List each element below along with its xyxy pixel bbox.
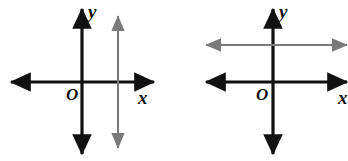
right-x-axis-label: x [338,88,348,107]
figure-svg [0,0,348,161]
right-y-axis-label: y [279,2,287,21]
left-origin-label: O [66,86,78,103]
right-origin-label: O [256,86,268,103]
left-y-axis-label: y [88,2,96,21]
left-x-axis-label: x [138,88,148,107]
coordinate-plane-figure: y x O y x O [0,0,348,161]
